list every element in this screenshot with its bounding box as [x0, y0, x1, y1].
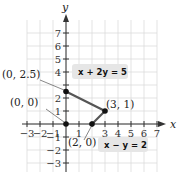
- y-tick-label: −3: [46, 158, 61, 169]
- label-y-intercept: (0, 2.5): [2, 68, 40, 80]
- coordinate-plot: x y −3−2−1134567765421−1−2−3 (0, 2.5) (0…: [0, 0, 184, 183]
- label-x-intercept: (2, 0): [68, 136, 96, 148]
- y-tick-label: 7: [55, 28, 61, 39]
- label-origin: (0, 0): [10, 96, 38, 108]
- point-y-intercept: [63, 89, 69, 95]
- point-x-intercept: [89, 121, 95, 127]
- y-tick-label: 6: [55, 41, 61, 52]
- label-vertex: (3, 1): [106, 98, 134, 110]
- x-axis-label: x: [170, 118, 177, 131]
- segment-x-plus-2y-eq-5: [66, 92, 105, 112]
- point-origin: [63, 121, 69, 127]
- y-tick-label: 2: [55, 93, 61, 104]
- y-tick-label: −1: [46, 132, 61, 143]
- y-tick-label: 1: [55, 106, 61, 117]
- x-tick-label: 7: [154, 128, 160, 139]
- y-axis-arrow-icon: [63, 14, 69, 22]
- equation-2: x − y = 2: [104, 140, 147, 150]
- x-axis-arrow-icon: [158, 121, 166, 127]
- y-tick-label: 5: [55, 54, 61, 65]
- y-tick-label: −2: [46, 145, 61, 156]
- y-tick-label: 4: [55, 67, 61, 78]
- y-axis-label: y: [61, 1, 69, 14]
- equation-1: x + 2y = 5: [78, 67, 127, 77]
